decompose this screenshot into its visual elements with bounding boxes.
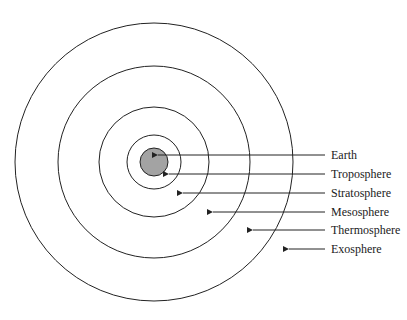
label-thermosphere: Thermosphere (331, 223, 400, 237)
label-earth: Earth (331, 148, 357, 162)
label-stratosphere: Stratosphere (331, 186, 391, 200)
earth-circle (140, 148, 168, 176)
label-exosphere: Exosphere (331, 242, 382, 256)
label-troposphere: Troposphere (331, 167, 391, 181)
label-mesosphere: Mesosphere (331, 205, 389, 219)
